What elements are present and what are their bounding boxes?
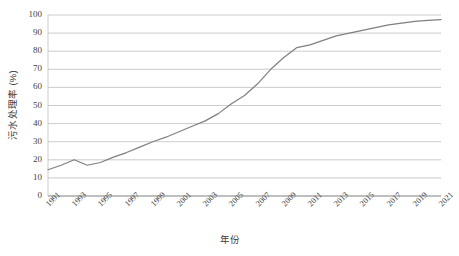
plot-area [0,0,459,256]
series-line [48,20,441,170]
chart-container: 污水处理率 (%) 1009080706050403020100 1991199… [0,0,459,256]
x-axis-title: 年份 [0,232,459,246]
gridlines [48,15,441,196]
data-series [48,20,441,170]
